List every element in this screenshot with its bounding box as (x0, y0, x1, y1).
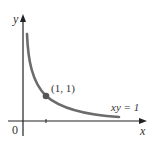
curve-equation-label: xy = 1 (111, 102, 139, 113)
y-axis-arrow-icon (20, 14, 26, 22)
graph-canvas (0, 0, 152, 146)
hyperbola-curve (27, 34, 119, 117)
point-label: (1, 1) (51, 83, 75, 94)
origin-label: 0 (12, 124, 18, 136)
y-axis-label: y (13, 13, 18, 25)
x-axis-label: x (140, 125, 145, 137)
point-1-1-marker (43, 93, 50, 100)
